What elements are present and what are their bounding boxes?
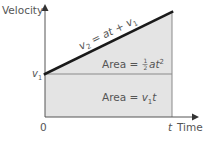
triangle-area-fraction-numerator: 1 [144, 57, 148, 64]
v1-label: v1 [32, 68, 42, 82]
velocity-time-diagram: Velocity 0 t Time v1 v2 = at + v1 Area =… [0, 0, 207, 144]
y-axis-label: Velocity [2, 4, 43, 16]
triangle-area-label: Area = [102, 58, 138, 70]
origin-label: 0 [40, 121, 47, 133]
x-axis-arrow-icon [192, 114, 199, 121]
t-end-label: t [168, 121, 173, 133]
triangle-area-fraction-denominator: 2 [144, 64, 148, 71]
x-axis-label: Time [176, 121, 203, 133]
